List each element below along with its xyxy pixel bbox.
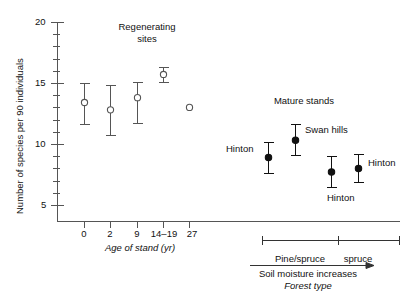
marker-open-circle (160, 71, 166, 77)
data-point-mature-2 (327, 157, 337, 188)
data-point-regen-0 (80, 84, 90, 125)
data-point-regen-3 (159, 68, 169, 83)
marker-open-circle (81, 99, 87, 105)
marker-open-circle (134, 95, 140, 101)
data-point-regen-1 (106, 86, 116, 136)
marker-filled-circle (328, 169, 334, 175)
soil-moisture-arrow-head (366, 263, 374, 269)
data-point-mature-1 (291, 125, 301, 156)
data-point-regen-4 (186, 104, 192, 110)
marker-filled-circle (265, 154, 271, 160)
chart-figure: Number of species per 90 individuals 20 … (0, 0, 408, 294)
chart-canvas (0, 0, 408, 294)
data-point-mature-0 (264, 143, 274, 174)
marker-open-circle (107, 107, 113, 113)
marker-filled-circle (292, 137, 298, 143)
data-point-regen-2 (133, 83, 143, 124)
marker-filled-circle (355, 165, 361, 171)
data-point-mature-3 (354, 155, 364, 183)
marker-open-circle (186, 104, 192, 110)
